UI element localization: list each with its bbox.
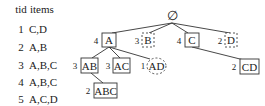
node-A: A: [105, 34, 113, 46]
node-AC: AC: [114, 60, 129, 72]
support-C: 4: [177, 36, 182, 46]
support-D: 2: [218, 36, 223, 46]
node-D: D: [227, 34, 235, 46]
support-CD: 2: [232, 62, 237, 72]
edge-AB-ABC: [91, 73, 103, 83]
support-AC: 3: [106, 61, 111, 71]
support-ABC: 2: [86, 86, 91, 96]
node-AB: AB: [82, 60, 97, 72]
tree-edges: [91, 23, 244, 83]
support-AD: 1: [141, 61, 146, 71]
node-C: C: [188, 34, 195, 46]
root-empty-set: ∅: [167, 8, 178, 23]
edge-A-AB: [92, 47, 109, 58]
support-AB: 3: [73, 61, 78, 71]
itemset-tree: ∅ 4 A 3 B 4 C 2 D 3 AB 3 AC 1 AD 2 CD 2 …: [0, 0, 265, 106]
node-AD: AD: [149, 60, 165, 72]
node-CD: CD: [242, 61, 257, 73]
node-ABC: ABC: [94, 85, 117, 97]
node-B: B: [144, 34, 151, 46]
support-B: 3: [135, 36, 140, 46]
support-A: 4: [94, 36, 99, 46]
edge-C-CD: [192, 47, 244, 60]
edge-root-A: [112, 23, 172, 33]
